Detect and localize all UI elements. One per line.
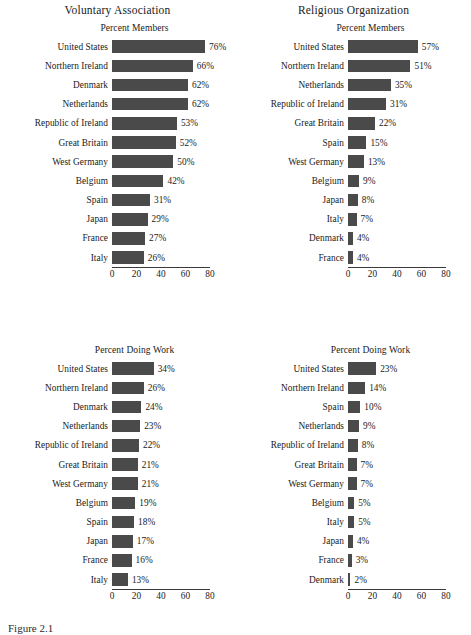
bar-track: 24% — [112, 397, 235, 416]
bar-value-label: 23% — [376, 364, 397, 374]
bar-value-label: 26% — [144, 253, 165, 263]
bar-row: Italy13% — [0, 570, 235, 589]
title-spacer — [236, 322, 471, 342]
bar-row: United States76% — [0, 37, 235, 56]
bar-row: United States57% — [236, 37, 471, 56]
bar-category-label: United States — [0, 42, 112, 52]
bar-category-label: France — [0, 555, 112, 565]
bar-value-label: 3% — [352, 555, 369, 565]
bar-row: Italy5% — [236, 513, 471, 532]
x-axis-tick-label: 0 — [110, 591, 115, 601]
bar-category-label: Japan — [0, 214, 112, 224]
figure-caption: Figure 2.1 — [8, 622, 471, 634]
bar-rows: United States23%Northern Ireland14%Spain… — [236, 359, 471, 589]
bar-row: Denmark62% — [0, 75, 235, 94]
title-spacer — [0, 322, 235, 342]
bar-value-label: 52% — [176, 138, 197, 148]
bar-value-label: 62% — [188, 99, 209, 109]
bar-track: 14% — [348, 378, 471, 397]
bar-track: 8% — [348, 191, 471, 210]
bar-track: 4% — [348, 248, 471, 267]
bar — [112, 362, 154, 375]
bar-row: Japan17% — [0, 532, 235, 551]
bar-value-label: 4% — [353, 253, 370, 263]
x-axis: 020406080 — [348, 589, 446, 605]
bar-category-label: France — [236, 555, 348, 565]
bar-track: 23% — [112, 417, 235, 436]
bar — [112, 420, 140, 433]
bar-track: 52% — [112, 133, 235, 152]
bar-value-label: 8% — [358, 195, 375, 205]
bar — [348, 98, 386, 111]
bar-track: 22% — [112, 436, 235, 455]
bar-value-label: 22% — [375, 118, 396, 128]
bar-row: Northern Ireland66% — [0, 56, 235, 75]
x-axis-tick-label: 60 — [417, 591, 426, 601]
bar-category-label: Denmark — [236, 575, 348, 585]
bar-value-label: 4% — [353, 536, 370, 546]
bar-category-label: Northern Ireland — [236, 383, 348, 393]
bar-row: West Germany21% — [0, 474, 235, 493]
bar-value-label: 7% — [357, 460, 374, 470]
bar-track: 19% — [112, 493, 235, 512]
bar-category-label: Republic of Ireland — [0, 118, 112, 128]
chart-group-title-religious: Religious Organization — [236, 0, 471, 20]
chart-subtitle-percent-doing-work-religious: Percent Doing Work — [236, 342, 471, 359]
bar — [348, 117, 375, 130]
chart-panel-religious-work: Percent Doing Work United States23%North… — [236, 322, 471, 605]
bar-row: Great Britain21% — [0, 455, 235, 474]
bar-track: 16% — [112, 551, 235, 570]
bar-value-label: 62% — [188, 80, 209, 90]
bar-value-label: 23% — [140, 421, 161, 431]
bar — [348, 79, 391, 92]
bar — [348, 136, 366, 149]
bar-category-label: Northern Ireland — [0, 383, 112, 393]
bar-track: 26% — [112, 378, 235, 397]
bar-category-label: Spain — [236, 138, 348, 148]
bar-value-label: 27% — [145, 233, 166, 243]
bar — [348, 60, 410, 73]
bar-value-label: 35% — [391, 80, 412, 90]
bar-rows: United States57%Northern Ireland51%Nethe… — [236, 37, 471, 267]
bar-track: 50% — [112, 152, 235, 171]
bar-value-label: 76% — [205, 42, 226, 52]
bar-row: Northern Ireland26% — [0, 378, 235, 397]
bar-track: 62% — [112, 75, 235, 94]
x-axis-tick-label: 80 — [441, 269, 450, 279]
bar-value-label: 16% — [132, 555, 153, 565]
bar-value-label: 26% — [144, 383, 165, 393]
bar-value-label: 42% — [163, 176, 184, 186]
x-axis-tick-label: 80 — [205, 269, 214, 279]
bar-category-label: Northern Ireland — [236, 61, 348, 71]
bar-category-label: France — [0, 233, 112, 243]
x-axis-tick-label: 80 — [441, 591, 450, 601]
bar-track: 4% — [348, 229, 471, 248]
bar — [112, 60, 193, 73]
bar-track: 7% — [348, 455, 471, 474]
bar — [112, 458, 138, 471]
bar — [112, 98, 188, 111]
bar-category-label: Great Britain — [0, 138, 112, 148]
bar-value-label: 29% — [148, 214, 169, 224]
bar-category-label: Republic of Ireland — [236, 99, 348, 109]
x-axis: 020406080 — [112, 267, 210, 283]
bar-row: Great Britain52% — [0, 133, 235, 152]
bar-value-label: 50% — [173, 157, 194, 167]
bar-row: Spain15% — [236, 133, 471, 152]
bar-value-label: 57% — [418, 42, 439, 52]
bar — [348, 155, 364, 168]
bar-track: 9% — [348, 417, 471, 436]
bar-track: 76% — [112, 37, 235, 56]
bar-track: 7% — [348, 210, 471, 229]
bar-category-label: Spain — [236, 402, 348, 412]
bar — [112, 516, 134, 529]
bar-row: France16% — [0, 551, 235, 570]
bar-row: Italy26% — [0, 248, 235, 267]
bar-row: Denmark2% — [236, 570, 471, 589]
bar-category-label: Great Britain — [0, 460, 112, 470]
bar-row: Denmark4% — [236, 229, 471, 248]
bar-track: 5% — [348, 493, 471, 512]
bar-row: Northern Ireland14% — [236, 378, 471, 397]
bar-value-label: 19% — [135, 498, 156, 508]
bar — [348, 213, 357, 226]
